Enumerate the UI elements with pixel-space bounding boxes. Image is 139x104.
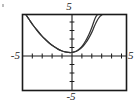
axis-label-top: 5 [66,1,72,12]
axis-label-left: -5 [11,50,20,61]
graph-plot [0,0,139,104]
axis-label-right: 5 [128,50,134,61]
graph-screenshot: 5 -5 -5 5 [0,0,139,104]
axis-label-bottom: -5 [66,91,75,102]
